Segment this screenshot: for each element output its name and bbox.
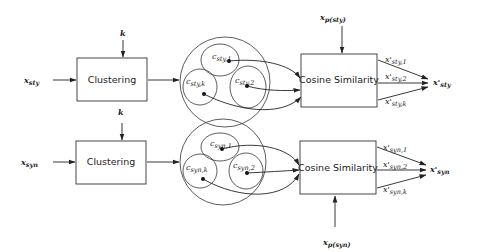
prototype-label: xp(syn)	[322, 237, 351, 249]
k-label: k	[118, 107, 124, 117]
output-label-1: x'syn,1	[383, 143, 407, 154]
result-label: x'syn	[429, 164, 450, 176]
cosine-similarity-label: Cosine Similarity	[299, 74, 379, 85]
output-label-2: x'syn,2	[383, 160, 407, 171]
output-label-2: x'sty,2	[385, 72, 407, 83]
arrow-centroid-2-to-similarity	[247, 86, 300, 91]
cluster-label-2: csyn,2	[233, 161, 255, 172]
diagram-canvas: xsty k Clustering csty,1 csty,2 csty,k x…	[0, 0, 483, 252]
cluster-label-2: csty,2	[235, 76, 254, 87]
output-label-k: x'sty,k	[385, 97, 407, 108]
cluster-label-k: csty,k	[186, 77, 205, 88]
result-label: x'sty	[432, 77, 452, 89]
cosine-similarity-label: Cosine Similarity	[298, 162, 378, 173]
cluster-set-circle	[180, 119, 266, 205]
arrow-centroid-1-to-similarity	[229, 60, 300, 78]
clustering-label: Clustering	[87, 156, 135, 167]
k-label: k	[120, 28, 126, 38]
arrow-centroid-k-to-similarity	[203, 174, 299, 194]
cluster-label-k: csyn,k	[186, 163, 208, 174]
branch-syn: xsyn k Clustering csyn,1 csyn,2 csyn,k x…	[20, 107, 450, 249]
clustering-label: Clustering	[88, 74, 136, 85]
branch-sty: xsty k Clustering csty,1 csty,2 csty,k x…	[23, 12, 452, 127]
output-label-k: x'syn,k	[383, 185, 407, 196]
prototype-label: xp(sty)	[319, 12, 346, 24]
input-x-syn: xsyn	[20, 157, 38, 169]
input-x-sty: xsty	[23, 75, 40, 87]
